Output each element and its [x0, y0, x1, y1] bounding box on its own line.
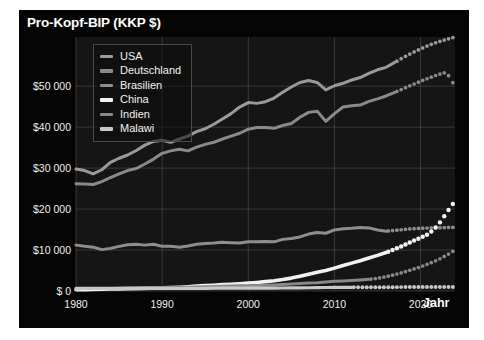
chart-legend: USADeutschlandBrasilienChinaIndienMalawi	[93, 44, 192, 142]
legend-swatch-icon	[100, 69, 113, 73]
x-tick-label: 1980	[64, 298, 87, 310]
y-tick-label: $30 000	[33, 162, 71, 174]
y-axis-tick-labels: $ 0$10 000$20 000$30 000$40 000$50 000	[19, 37, 71, 291]
legend-swatch-icon	[100, 84, 113, 88]
legend-swatch-icon	[100, 113, 113, 117]
x-tick-label: 1990	[150, 298, 173, 310]
y-tick-label: $ 0	[56, 285, 71, 297]
x-axis-title: Jahr	[423, 296, 449, 310]
x-axis-tick-labels: 19801990200020102020	[76, 298, 455, 314]
chart-figure: Pro-Kopf-BIP (KKP $) $ 0$10 000$20 000$3…	[0, 0, 484, 340]
legend-item: Malawi	[100, 122, 181, 137]
chart-panel: Pro-Kopf-BIP (KKP $) $ 0$10 000$20 000$3…	[19, 10, 469, 328]
legend-item: Brasilien	[100, 78, 181, 93]
legend-swatch-icon	[100, 127, 113, 132]
legend-item-label: USA	[120, 51, 143, 62]
legend-item-label: Malawi	[120, 123, 154, 134]
y-tick-label: $50 000	[33, 80, 71, 92]
legend-item: USA	[100, 49, 181, 64]
legend-item: Indien	[100, 107, 181, 122]
legend-item: Deutschland	[100, 64, 181, 79]
legend-swatch-icon	[100, 98, 113, 103]
legend-item-label: Indien	[120, 109, 150, 120]
y-tick-label: $20 000	[33, 203, 71, 215]
legend-swatch-icon	[100, 55, 113, 59]
y-tick-label: $40 000	[33, 121, 71, 133]
legend-item-label: China	[120, 94, 149, 105]
x-tick-label: 2000	[237, 298, 260, 310]
legend-item-label: Brasilien	[120, 80, 162, 91]
legend-item-label: Deutschland	[120, 65, 181, 76]
legend-item: China	[100, 93, 181, 108]
chart-title: Pro-Kopf-BIP (KKP $)	[27, 15, 161, 30]
x-tick-label: 2010	[323, 298, 346, 310]
y-tick-label: $10 000	[33, 244, 71, 256]
